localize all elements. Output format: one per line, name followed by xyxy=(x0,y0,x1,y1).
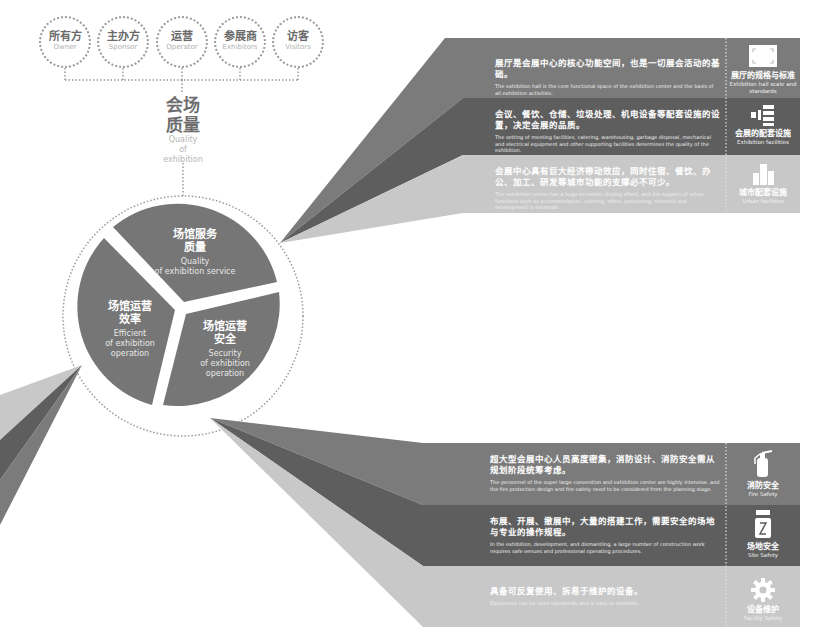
stakeholder-en: Exhibitors xyxy=(216,43,264,52)
stakeholder-en: Operator xyxy=(158,43,206,52)
pie-efficiency-en-3: operation xyxy=(95,349,165,359)
band-cn: 具备可反复使用、拆易于维护的设备。 xyxy=(490,586,720,597)
center-title-en-1: Quality xyxy=(150,135,216,145)
stakeholder-cn: 主办方 xyxy=(99,30,147,43)
center-title: 会场 质量 Quality of exhibition xyxy=(150,95,216,165)
pie-service-en-2: of exhibition service xyxy=(140,267,250,277)
tag-hall-scale: 展厅的规格与标准 Exhibition hall scale and stand… xyxy=(728,44,798,95)
band-en: The personnel of the super large convent… xyxy=(490,479,720,492)
tag-cn: 展厅的规格与标准 xyxy=(728,71,798,81)
band-en: The setting of meeting facilities, cater… xyxy=(495,134,720,154)
pie-service-en-1: Quality xyxy=(140,257,250,267)
service-band-2-text: 会议、餐饮、仓储、垃圾处理、机电设备等配套设施的设置，决定会展的品质。 The … xyxy=(495,109,720,154)
center-title-cn-1: 会场 xyxy=(150,95,216,115)
tag-en: Exhibition facilities xyxy=(728,139,798,146)
band-cn: 超大型会展中心人员高度密集，消防设计、消防安全需从规划阶段统筹考虑。 xyxy=(490,454,720,476)
tag-en: Facility Safety xyxy=(728,615,798,622)
tag-cn: 场地安全 xyxy=(728,542,798,552)
tag-cn: 城市配套设施 xyxy=(728,188,798,198)
facilities-list-icon xyxy=(750,104,776,126)
tag-cn: 消防安全 xyxy=(728,481,798,491)
service-band-3-text: 会展中心具有巨大经济带动效应，同时住宿、餐饮、办公、加工、研发等城市功能的支撑必… xyxy=(495,166,720,211)
band-cn: 展厅是会展中心的核心功能空间，也是一切展会活动的基础。 xyxy=(495,58,720,80)
stakeholder-cn: 所有方 xyxy=(41,30,89,43)
security-band-1-text: 超大型会展中心人员高度密集，消防设计、消防安全需从规划阶段统筹考虑。 The p… xyxy=(490,454,720,492)
city-buildings-icon xyxy=(750,163,776,185)
center-title-en-3: exhibition xyxy=(150,155,216,165)
tag-site-safety: 场地安全 Site Safety xyxy=(728,509,798,559)
stakeholder-owner: 所有方 Owner xyxy=(39,16,91,68)
pie-security-en-1: Security xyxy=(188,349,262,359)
band-en: The exhibition center has a huge economi… xyxy=(495,191,720,211)
stakeholder-sponsor: 主办方 Sponsor xyxy=(97,16,149,68)
service-band-1-text: 展厅是会展中心的核心功能空间，也是一切展会活动的基础。 The exhibiti… xyxy=(495,58,720,96)
tag-cn: 设备维护 xyxy=(728,605,798,615)
tag-en: Fire Safety xyxy=(728,491,798,498)
stakeholder-operator: 运营 Operator xyxy=(156,16,208,68)
pie-security-en-2: of exhibition xyxy=(188,359,262,369)
pie-label-efficiency: 场馆运营 效率 Efficient of exhibition operatio… xyxy=(95,300,165,359)
band-en: The exhibition hall is the core function… xyxy=(495,83,720,96)
fire-extinguisher-icon xyxy=(752,448,774,478)
center-title-cn-2: 质量 xyxy=(150,115,216,135)
center-title-en-2: of xyxy=(150,145,216,155)
pie-efficiency-cn-1: 场馆运营 xyxy=(95,300,165,313)
hall-frame-icon xyxy=(748,44,778,68)
band-cn: 会展中心具有巨大经济带动效应，同时住宿、餐饮、办公、加工、研发等城市功能的支撑必… xyxy=(495,166,720,188)
efficiency-fan xyxy=(0,365,82,525)
pie-label-security: 场馆运营 安全 Security of exhibition operation xyxy=(188,320,262,379)
band-en: Equipment can be used repeatedly and is … xyxy=(490,600,720,607)
band-cn: 布展、开展、撤展中，大量的搭建工作，需要安全的场地与专业的操作规程。 xyxy=(490,516,720,538)
tag-fire-safety: 消防安全 Fire Safety xyxy=(728,448,798,498)
stakeholder-en: Sponsor xyxy=(99,43,147,52)
pie-service-cn-2: 质量 xyxy=(140,241,250,254)
pie-security-cn-1: 场馆运营 xyxy=(188,320,262,333)
stakeholder-en: Visitors xyxy=(274,43,322,52)
pie-security-en-3: operation xyxy=(188,369,262,379)
security-band-3-text: 具备可反复使用、拆易于维护的设备。 Equipment can be used … xyxy=(490,586,720,607)
pie-efficiency-en-1: Efficient xyxy=(95,329,165,339)
tag-exhibition-facilities: 会展的配套设施 Exhibition facilities xyxy=(728,104,798,146)
crane-hook-icon xyxy=(752,509,774,539)
band-cn: 会议、餐饮、仓储、垃圾处理、机电设备等配套设施的设置，决定会展的品质。 xyxy=(495,109,720,131)
stakeholder-exhibitors: 参展商 Exhibitors xyxy=(214,16,266,68)
pie-service-cn-1: 场馆服务 xyxy=(140,228,250,241)
security-band-2-text: 布展、开展、撤展中，大量的搭建工作，需要安全的场地与专业的操作规程。 In th… xyxy=(490,516,720,554)
stakeholder-cn: 参展商 xyxy=(216,30,264,43)
pie-security-cn-2: 安全 xyxy=(188,333,262,346)
stakeholder-en: Owner xyxy=(41,43,89,52)
gear-icon xyxy=(751,578,775,602)
tag-urban-facilities: 城市配套设施 Urban facilities xyxy=(728,163,798,205)
tag-en: Site Safety xyxy=(728,552,798,559)
tag-en: Urban facilities xyxy=(728,198,798,205)
pie-efficiency-cn-2: 效率 xyxy=(95,313,165,326)
tag-facility-safety: 设备维护 Facility Safety xyxy=(728,578,798,622)
stakeholder-cn: 访客 xyxy=(274,30,322,43)
stakeholder-visitors: 访客 Visitors xyxy=(272,16,324,68)
tag-cn: 会展的配套设施 xyxy=(728,129,798,139)
band-en: In the exhibition, development, and dism… xyxy=(490,541,720,554)
tag-en: Exhibition hall scale and standards xyxy=(728,81,798,95)
pie-efficiency-en-2: of exhibition xyxy=(95,339,165,349)
stakeholder-cn: 运营 xyxy=(158,30,206,43)
pie-label-service: 场馆服务 质量 Quality of exhibition service xyxy=(140,228,250,277)
